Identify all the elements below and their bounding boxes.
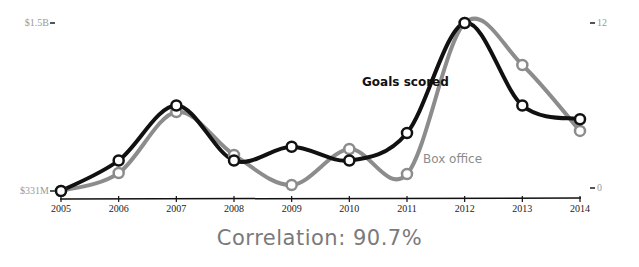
box-office-label: Box office (423, 152, 482, 166)
box-office-point (517, 60, 527, 70)
x-axis-tick-label: 2011 (397, 203, 417, 214)
goals-scored-point (460, 18, 470, 28)
x-axis-line (60, 198, 581, 199)
goals-scored-point (517, 101, 527, 111)
right-axis-bottom-label: 0 (597, 182, 602, 193)
x-axis-tick-label: 2007 (166, 203, 186, 214)
box-office-point (114, 168, 124, 178)
goals-scored-point (171, 101, 181, 111)
goals-scored-label: Goals scored (362, 75, 449, 89)
correlation-text: Correlation: 90.7% (0, 226, 639, 250)
series-lines (61, 19, 580, 191)
goals-scored-point (344, 156, 354, 166)
dual-axis-line-chart: 2005200620072008200920102011201220132014… (0, 0, 639, 225)
goals-scored-point (229, 156, 239, 166)
goals-scored-point (114, 156, 124, 166)
box-office-point (344, 144, 354, 154)
x-axis-tick-label: 2013 (512, 203, 532, 214)
goals-scored-point (402, 128, 412, 138)
left-axis-bottom-label: $331M (20, 185, 49, 196)
goals-scored-point (287, 142, 297, 152)
right-axis-top-label: 12 (597, 17, 607, 28)
box-office-point (575, 126, 585, 136)
left-axis-top-label: $1.5B (25, 17, 50, 28)
axes: 2005200620072008200920102011201220132014 (51, 196, 590, 214)
box-office-point (287, 180, 297, 190)
box-office-point (402, 169, 412, 179)
x-axis-tick-label: 2014 (570, 203, 590, 214)
x-axis-tick-label: 2006 (109, 203, 129, 214)
box-office-line (61, 19, 580, 191)
x-axis-tick-label: 2005 (51, 203, 71, 214)
x-axis-tick-label: 2010 (339, 203, 359, 214)
x-axis-tick-label: 2012 (455, 203, 475, 214)
x-axis-tick-label: 2009 (282, 203, 302, 214)
goals-scored-point (575, 114, 585, 124)
x-axis-tick-label: 2008 (224, 203, 244, 214)
goals-scored-point (56, 186, 66, 196)
